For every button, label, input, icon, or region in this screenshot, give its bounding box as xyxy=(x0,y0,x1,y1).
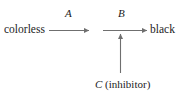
node-label-black: black xyxy=(150,24,175,36)
inhibitor-qualifier-text: (inhibitor) xyxy=(105,78,150,90)
arrow-label-a: A xyxy=(65,8,72,19)
node-label-inhibitor: C (inhibitor) xyxy=(95,79,150,90)
arrow-layer xyxy=(0,0,187,95)
reaction-scheme-diagram: colorless A B black C (inhibitor) xyxy=(0,0,187,95)
arrow-label-b: B xyxy=(118,8,125,19)
node-label-colorless: colorless xyxy=(4,24,45,36)
